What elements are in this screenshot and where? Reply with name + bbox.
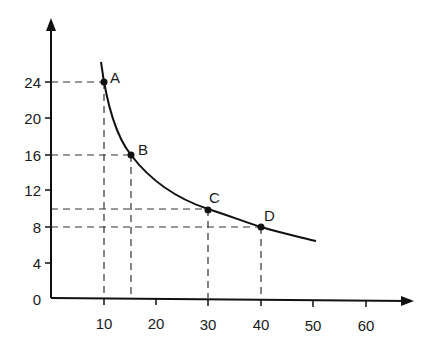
guide-lines [51,82,261,298]
x-tick-label: 60 [358,317,375,334]
point-d [258,224,265,231]
y-tick-label: 0 [33,291,41,308]
x-tick-label: 30 [200,316,217,333]
y-tick-label: 16 [24,147,41,164]
chart: 24 20 16 12 8 4 0 10 20 30 40 50 60 A B … [0,0,433,353]
y-tick-label: 8 [33,219,41,236]
x-tick-label: 40 [253,316,270,333]
point-a [101,79,108,86]
y-axis-arrow-icon [46,18,56,31]
y-tick-label: 20 [24,110,41,127]
point-b [128,152,135,159]
point-label-b: B [138,141,148,158]
point-c [205,207,212,214]
point-label-d: D [264,207,275,224]
y-tick-label: 4 [33,255,41,272]
y-tick-label: 12 [24,182,41,199]
x-axis-arrow-icon [401,296,414,306]
x-tick-label: 50 [305,317,322,334]
x-tick-label: 10 [96,315,113,332]
point-label-a: A [110,69,120,86]
y-tick-label: 24 [24,74,41,91]
point-label-c: C [209,189,220,206]
x-tick-label: 20 [148,315,165,332]
